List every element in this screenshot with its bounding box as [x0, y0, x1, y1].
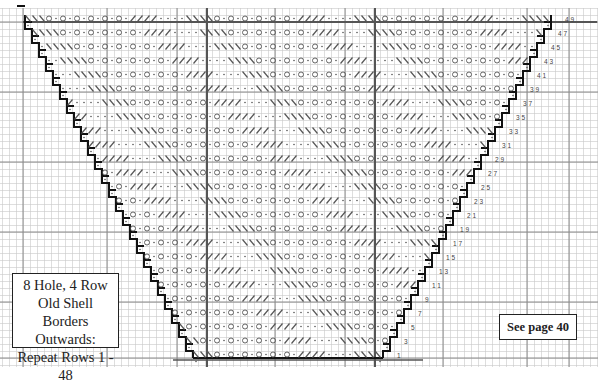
svg-text:31: 31	[502, 142, 513, 149]
svg-text:1: 1	[397, 352, 403, 359]
svg-text:13: 13	[439, 268, 450, 275]
chart-info-box: 8 Hole, 4 Row Old Shell Borders Outwards…	[12, 273, 119, 348]
svg-text:29: 29	[495, 156, 506, 163]
svg-text:9: 9	[425, 296, 431, 303]
svg-text:49: 49	[565, 16, 576, 23]
info-line-3: Borders Outwards:	[13, 312, 118, 348]
svg-text:47: 47	[558, 30, 569, 37]
info-line-4: Repeat Rows 1 - 48	[13, 348, 118, 384]
svg-text:21: 21	[467, 212, 478, 219]
svg-text:41: 41	[537, 72, 548, 79]
svg-text:19: 19	[460, 226, 471, 233]
svg-text:17: 17	[453, 240, 464, 247]
svg-text:43: 43	[544, 58, 555, 65]
svg-text:11: 11	[432, 282, 443, 289]
svg-text:45: 45	[551, 44, 562, 51]
svg-text:3: 3	[404, 338, 410, 345]
info-line-2: Old Shell	[13, 294, 118, 312]
svg-text:23: 23	[474, 198, 485, 205]
svg-text:25: 25	[481, 184, 492, 191]
svg-text:39: 39	[530, 86, 541, 93]
page-reference-label: See page 40	[507, 320, 569, 334]
svg-text:15: 15	[446, 254, 457, 261]
svg-text:37: 37	[523, 100, 534, 107]
svg-text:5: 5	[411, 324, 417, 331]
page-reference-box: See page 40	[499, 314, 577, 340]
svg-text:27: 27	[488, 170, 499, 177]
info-line-1: 8 Hole, 4 Row	[13, 276, 118, 294]
svg-text:35: 35	[516, 114, 527, 121]
svg-text:33: 33	[509, 128, 520, 135]
svg-text:7: 7	[418, 310, 424, 317]
